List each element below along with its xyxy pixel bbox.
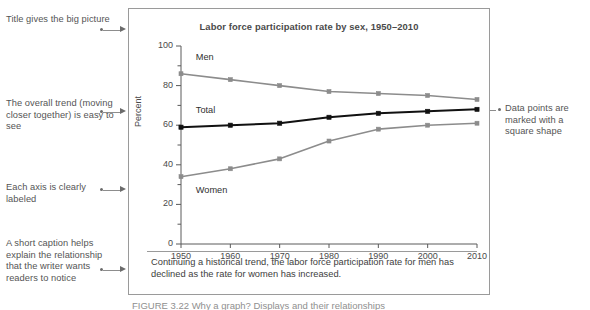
leader-line-caption (103, 270, 121, 271)
chart-plot-area: Percent 020406080100 1950196019701980199… (129, 9, 491, 296)
leader-dot-marker (498, 108, 501, 111)
annotation-axis-note: Each axis is clearly labeled (6, 182, 114, 205)
leader-line-title (103, 30, 121, 31)
caption-divider (147, 251, 477, 252)
annotation-trend-note: The overall trend (moving closer togethe… (6, 98, 114, 133)
annotation-caption-note: A short caption helps explain the relati… (6, 238, 114, 284)
figure-annotation-page: Title gives the big picture The overall … (0, 0, 590, 310)
leader-arrow-axis (120, 186, 126, 192)
chart-caption: Continuing a historical trend, the labor… (151, 256, 473, 280)
leader-line-axis (103, 190, 121, 191)
leader-arrow-trend (120, 108, 126, 114)
figure-box: Labor force participation rate by sex, 1… (128, 8, 490, 295)
leader-line-trend (103, 112, 121, 113)
annotation-title-note: Title gives the big picture (6, 14, 114, 26)
leader-arrow-caption (120, 266, 126, 272)
chart-svg (129, 9, 491, 296)
page-footer-clipped-text: FIGURE 3.22 Why a graph? Displays and th… (132, 300, 552, 310)
leader-arrow-title (120, 26, 126, 32)
annotation-marker-note: Data points are marked with a square sha… (505, 103, 589, 138)
